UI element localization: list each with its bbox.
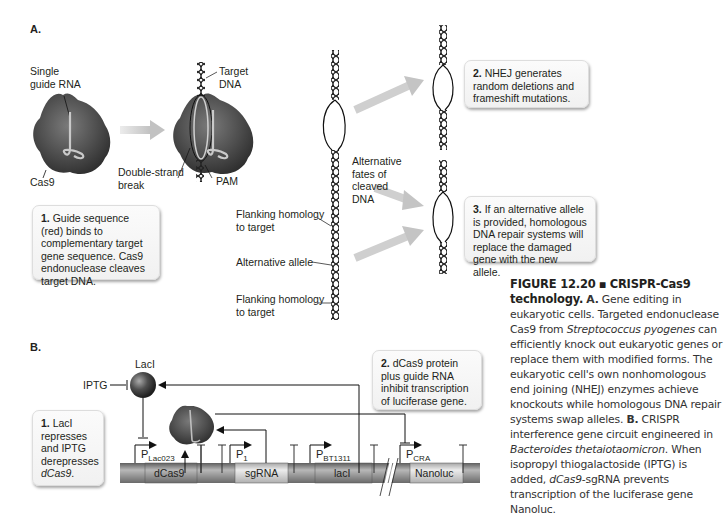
- caption-segment: dCas9: [549, 473, 582, 486]
- promoter-arrows: [135, 445, 420, 463]
- label-target-dna: Target DNA: [219, 65, 248, 90]
- caption-segment: A.: [586, 293, 598, 306]
- caption-segment: Streptococcus pyogenes: [567, 323, 695, 336]
- promoter-sub: BT1311: [323, 454, 350, 463]
- label-flanking-homology-top: Flanking homology to target: [236, 208, 324, 233]
- callout-number: 3.: [473, 203, 482, 215]
- laci-repression-icon: [138, 398, 148, 438]
- callout-text: dCas9 protein plus guide RNA inhibit tra…: [381, 357, 469, 407]
- callout-italic: dCas9: [41, 467, 71, 479]
- iptg-inhibit-icon: [110, 380, 127, 390]
- caption-body: A. Gene editing in eukaryotic cells. Tar…: [510, 293, 722, 516]
- promoter-lac023: PLac023: [141, 448, 175, 463]
- label-pam: PAM: [216, 175, 238, 188]
- gene-nanoluc: Nanoluc: [415, 467, 454, 479]
- panel-a-label: A.: [30, 23, 41, 35]
- cleaved-dna-icon: [323, 50, 345, 205]
- callout-b-step-1: 1. LacI represses and IPTG derepresses d…: [32, 410, 104, 486]
- callout-number: 1.: [41, 417, 50, 429]
- callout-tail: .: [71, 467, 74, 479]
- promoter-sub: 1: [243, 454, 247, 463]
- label-alternative-allele: Alternative allele: [236, 256, 313, 269]
- callout-step-3: 3. If an alternative allele is provided,…: [464, 196, 596, 262]
- callout-b-step-2: 2. dCas9 protein plus guide RNA inhibit …: [372, 350, 482, 410]
- panel-b-label: B.: [30, 341, 41, 353]
- figure-number: FIGURE 12.20: [510, 277, 596, 291]
- gray-arrow-icon: [120, 120, 165, 140]
- callout-text: Guide sequence (red) binds to complement…: [41, 212, 145, 287]
- callout-number: 2.: [381, 357, 390, 369]
- label-iptg: IPTG: [83, 379, 108, 392]
- promoter-sub: Lac023: [148, 454, 174, 463]
- caption-segment: B.: [626, 413, 638, 426]
- promoter-p1: P1: [236, 448, 248, 463]
- label-alternative-fates: Alternative fates of cleaved DNA: [352, 155, 402, 205]
- gene-laci: lacI: [334, 467, 350, 479]
- figure-caption: FIGURE 12.20 ▪ CRISPR-Cas9 technology. A…: [510, 277, 725, 516]
- promoter-cra: PCRA: [406, 448, 430, 463]
- gene-dcas9: dCas9: [154, 467, 184, 479]
- dcas9-repression-line: [215, 414, 410, 443]
- fate-arrow-nhej-icon: [355, 76, 424, 110]
- label-double-strand-break: Double-strand break: [118, 166, 184, 191]
- figure-separator: ▪: [599, 277, 607, 291]
- cas9-protein-icon: [33, 94, 110, 178]
- callout-step-2: 2. NHEJ generates random deletions and f…: [464, 60, 589, 108]
- laci-protein-icon: [130, 372, 156, 398]
- nhej-dna-icon: [433, 25, 453, 150]
- callout-number: 2.: [473, 67, 482, 79]
- label-cas9: Cas9: [30, 176, 55, 189]
- label-single-guide-rna: Single guide RNA: [30, 65, 81, 90]
- caption-segment: Bacteroides thetaiotaomicron: [510, 443, 665, 456]
- label-flanking-homology-bottom: Flanking homology to target: [236, 293, 324, 318]
- label-laci-protein: LacI: [135, 358, 155, 371]
- callout-text: NHEJ generates random deletions and fram…: [473, 67, 574, 104]
- caption-segment: can efficiently knock out eukaryotic gen…: [510, 323, 722, 426]
- callout-step-1: 1. Guide sequence (red) binds to complem…: [32, 205, 160, 280]
- promoter-bt1311: PBT1311: [316, 448, 351, 463]
- promoter-sub: CRA: [413, 454, 430, 463]
- callout-number: 1.: [41, 212, 50, 224]
- gene-sgrna: sgRNA: [245, 467, 278, 479]
- fate-arrow-hdr-bottom-icon: [355, 226, 424, 258]
- callout-text: LacI represses and IPTG derepresses: [41, 417, 99, 467]
- dcas9-protein-icon: [169, 406, 214, 445]
- hdr-dna-icon: [433, 160, 453, 274]
